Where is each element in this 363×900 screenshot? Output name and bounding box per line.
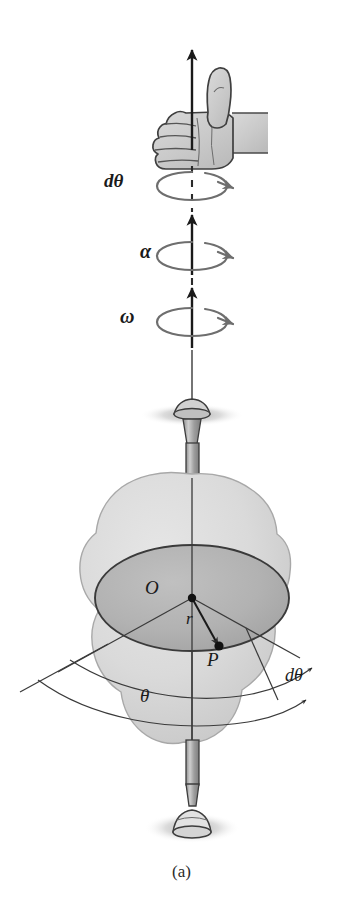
- label-theta: θ: [140, 686, 149, 705]
- pivot-bearing-top: [174, 399, 210, 483]
- dtheta-rotation-arrow: [157, 172, 233, 200]
- center-point-O: [188, 594, 196, 602]
- lower-shaft-taper: [186, 784, 199, 806]
- lower-shaft: [186, 740, 199, 785]
- label-radius-r: r: [186, 610, 193, 627]
- thumbs-up-hand-icon: [153, 68, 268, 169]
- omega-rotation-arrow: [157, 308, 233, 336]
- reference-ray-extension: [20, 644, 108, 692]
- label-point-P: P: [207, 650, 219, 669]
- label-center-O: O: [145, 578, 159, 597]
- figure-caption: (a): [0, 862, 363, 882]
- figure-container: dθ α ω O r P θ dθ (a): [0, 0, 363, 900]
- label-alpha: α: [140, 241, 151, 261]
- rigid-body-rotation-figure: [0, 0, 363, 900]
- label-dtheta-bottom: dθ: [285, 666, 303, 684]
- alpha-rotation-arrow: [157, 242, 233, 270]
- label-omega: ω: [120, 306, 134, 326]
- label-dtheta-top: dθ: [104, 171, 123, 190]
